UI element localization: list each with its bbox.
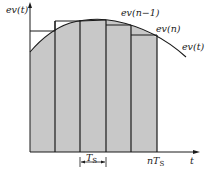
period-arrow-right-icon (101, 161, 105, 164)
sampling-diagram: ev(t) t ev(n−1) ev(n) ev(t) TS nTS (0, 0, 209, 187)
label-ev-n-minus-1: ev(n−1) (121, 7, 160, 18)
label-ev-t: ev(t) (182, 41, 205, 52)
label-ev-n: ev(n) (156, 23, 181, 34)
end-time-label-sub: S (159, 160, 164, 168)
period-label-sub: S (92, 157, 97, 165)
y-axis-label: ev(t) (6, 4, 29, 15)
x-axis-arrow-icon (193, 150, 200, 154)
y-axis-arrow-icon (28, 2, 32, 8)
area-under-curve (30, 19, 157, 152)
end-time-label-main: nT (147, 155, 160, 166)
period-label: TS (86, 152, 97, 165)
period-arrow-left-icon (81, 161, 85, 164)
x-axis-label: t (190, 155, 194, 166)
end-time-label: nTS (147, 155, 164, 168)
